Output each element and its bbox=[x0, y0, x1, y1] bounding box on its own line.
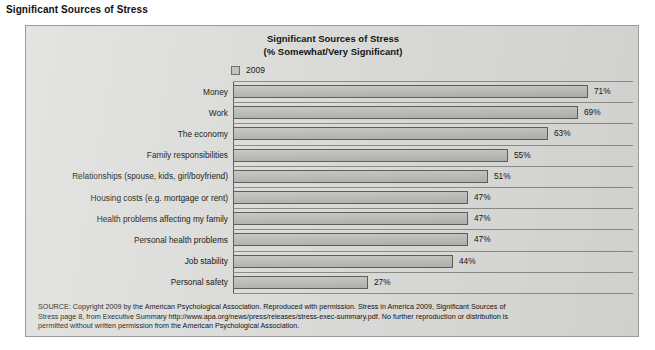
chart-title-line-2: (% Somewhat/Very Significant) bbox=[26, 46, 640, 59]
gridline bbox=[233, 81, 633, 82]
category-label: Job stability bbox=[26, 256, 233, 266]
bar-track: 47% bbox=[233, 208, 633, 229]
legend-swatch-icon bbox=[231, 66, 240, 75]
bar-value-label: 47% bbox=[474, 191, 491, 204]
chart-title: Significant Sources of Stress (% Somewha… bbox=[26, 33, 640, 58]
bar-value-label: 71% bbox=[594, 85, 611, 98]
chart-title-line-1: Significant Sources of Stress bbox=[26, 33, 640, 46]
bar-value-label: 55% bbox=[514, 149, 531, 162]
category-label: Relationships (spouse, kids, girl/boyfri… bbox=[26, 171, 233, 181]
bar-value-label: 51% bbox=[494, 170, 511, 183]
figure-panel: Significant Sources of Stress (% Somewha… bbox=[25, 25, 639, 337]
bar-track: 69% bbox=[233, 102, 633, 123]
category-label: Money bbox=[26, 87, 233, 97]
chart-legend: 2009 bbox=[231, 65, 265, 75]
legend-item-label: 2009 bbox=[246, 65, 265, 75]
source-note-line-1: SOURCE: Copyright 2009 by the American P… bbox=[38, 302, 598, 312]
bar-row: Money71% bbox=[26, 81, 640, 102]
bar bbox=[233, 170, 488, 183]
bar bbox=[233, 85, 588, 98]
bar-track: 71% bbox=[233, 81, 633, 102]
category-label: The economy bbox=[26, 129, 233, 139]
bar bbox=[233, 106, 578, 119]
bar bbox=[233, 191, 468, 204]
category-label: Housing costs (e.g. mortgage or rent) bbox=[26, 193, 233, 203]
category-label: Personal safety bbox=[26, 277, 233, 287]
bar-row: Relationships (spouse, kids, girl/boyfri… bbox=[26, 166, 640, 187]
bar-value-label: 44% bbox=[459, 255, 476, 268]
bar-track: 47% bbox=[233, 229, 633, 250]
source-note-line-3: permitted without written permission fro… bbox=[38, 321, 598, 331]
bar-row: Health problems affecting my family47% bbox=[26, 208, 640, 229]
category-label: Family responsibilities bbox=[26, 150, 233, 160]
bar-value-label: 47% bbox=[474, 212, 491, 225]
bar-row: Work69% bbox=[26, 102, 640, 123]
bar bbox=[233, 127, 548, 140]
bar-row: Job stability44% bbox=[26, 251, 640, 272]
source-note-line-2: Stress page 8, from Executive Summary ht… bbox=[38, 312, 598, 322]
bar-value-label: 63% bbox=[554, 127, 571, 140]
bar-track: 63% bbox=[233, 123, 633, 144]
bar-track: 27% bbox=[233, 272, 633, 293]
bar-value-label: 47% bbox=[474, 233, 491, 246]
bar-value-label: 69% bbox=[584, 106, 601, 119]
bar-row: The economy63% bbox=[26, 123, 640, 144]
bar-row: Housing costs (e.g. mortgage or rent)47% bbox=[26, 187, 640, 208]
bar-track: 47% bbox=[233, 187, 633, 208]
category-label: Personal health problems bbox=[26, 235, 233, 245]
gridline bbox=[233, 293, 633, 294]
page-title: Significant Sources of Stress bbox=[6, 4, 148, 15]
source-note: SOURCE: Copyright 2009 by the American P… bbox=[38, 302, 598, 331]
bar-row: Personal health problems47% bbox=[26, 229, 640, 250]
bar-track: 44% bbox=[233, 251, 633, 272]
bar bbox=[233, 255, 453, 268]
bar bbox=[233, 276, 368, 289]
chart-plot-area: Money71%Work69%The economy63%Family resp… bbox=[26, 81, 640, 293]
category-label: Health problems affecting my family bbox=[26, 214, 233, 224]
bar bbox=[233, 233, 468, 246]
bar-track: 55% bbox=[233, 145, 633, 166]
bar-row: Personal safety27% bbox=[26, 272, 640, 293]
bar-value-label: 27% bbox=[374, 276, 391, 289]
bar-track: 51% bbox=[233, 166, 633, 187]
bar-row: Family responsibilities55% bbox=[26, 145, 640, 166]
bar bbox=[233, 149, 508, 162]
category-label: Work bbox=[26, 108, 233, 118]
bar bbox=[233, 212, 468, 225]
